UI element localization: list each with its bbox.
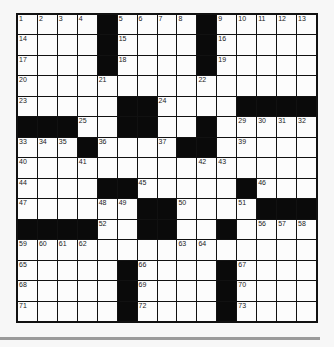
answer-cell[interactable]: [177, 302, 196, 321]
answer-cell[interactable]: [297, 179, 316, 198]
answer-cell[interactable]: [138, 138, 157, 157]
answer-cell[interactable]: 29: [237, 117, 256, 136]
answer-cell[interactable]: [158, 261, 177, 280]
answer-cell[interactable]: 9: [217, 15, 236, 34]
answer-cell[interactable]: [217, 138, 236, 157]
answer-cell[interactable]: [277, 56, 296, 75]
answer-cell[interactable]: [237, 35, 256, 54]
answer-cell[interactable]: [257, 281, 276, 300]
answer-cell[interactable]: 39: [237, 138, 256, 157]
answer-cell[interactable]: [58, 302, 77, 321]
answer-cell[interactable]: [158, 281, 177, 300]
answer-cell[interactable]: [58, 179, 77, 198]
answer-cell[interactable]: [297, 56, 316, 75]
answer-cell[interactable]: 62: [78, 240, 97, 259]
answer-cell[interactable]: [177, 158, 196, 177]
answer-cell[interactable]: [277, 35, 296, 54]
answer-cell[interactable]: [177, 220, 196, 239]
answer-cell[interactable]: [277, 261, 296, 280]
answer-cell[interactable]: [177, 179, 196, 198]
answer-cell[interactable]: 1: [18, 15, 37, 34]
answer-cell[interactable]: [38, 56, 57, 75]
answer-cell[interactable]: [237, 56, 256, 75]
answer-cell[interactable]: 67: [237, 261, 256, 280]
answer-cell[interactable]: [78, 261, 97, 280]
answer-cell[interactable]: 68: [18, 281, 37, 300]
answer-cell[interactable]: [177, 261, 196, 280]
answer-cell[interactable]: [78, 199, 97, 218]
answer-cell[interactable]: [118, 220, 137, 239]
answer-cell[interactable]: [38, 158, 57, 177]
answer-cell[interactable]: 12: [277, 15, 296, 34]
answer-cell[interactable]: [297, 240, 316, 259]
answer-cell[interactable]: [138, 35, 157, 54]
answer-cell[interactable]: [58, 261, 77, 280]
answer-cell[interactable]: 22: [197, 76, 216, 95]
answer-cell[interactable]: 37: [158, 138, 177, 157]
answer-cell[interactable]: [98, 281, 117, 300]
answer-cell[interactable]: [78, 281, 97, 300]
answer-cell[interactable]: 34: [38, 138, 57, 157]
answer-cell[interactable]: [78, 35, 97, 54]
answer-cell[interactable]: 5: [118, 15, 137, 34]
answer-cell[interactable]: [118, 158, 137, 177]
answer-cell[interactable]: [297, 76, 316, 95]
answer-cell[interactable]: 48: [98, 199, 117, 218]
answer-cell[interactable]: [78, 179, 97, 198]
answer-cell[interactable]: 36: [98, 138, 117, 157]
answer-cell[interactable]: 10: [237, 15, 256, 34]
answer-cell[interactable]: [58, 35, 77, 54]
answer-cell[interactable]: [177, 281, 196, 300]
answer-cell[interactable]: 57: [277, 220, 296, 239]
answer-cell[interactable]: [58, 158, 77, 177]
answer-cell[interactable]: 43: [217, 158, 236, 177]
answer-cell[interactable]: [197, 302, 216, 321]
answer-cell[interactable]: 70: [237, 281, 256, 300]
answer-cell[interactable]: 13: [297, 15, 316, 34]
answer-cell[interactable]: [297, 302, 316, 321]
answer-cell[interactable]: [38, 97, 57, 116]
answer-cell[interactable]: 24: [158, 97, 177, 116]
answer-cell[interactable]: 58: [297, 220, 316, 239]
answer-cell[interactable]: 20: [18, 76, 37, 95]
answer-cell[interactable]: [158, 35, 177, 54]
answer-cell[interactable]: [58, 97, 77, 116]
answer-cell[interactable]: [78, 97, 97, 116]
answer-cell[interactable]: 3: [58, 15, 77, 34]
answer-cell[interactable]: [98, 117, 117, 136]
answer-cell[interactable]: [197, 220, 216, 239]
answer-cell[interactable]: [158, 158, 177, 177]
answer-cell[interactable]: 49: [118, 199, 137, 218]
answer-cell[interactable]: [217, 117, 236, 136]
answer-cell[interactable]: [177, 35, 196, 54]
answer-cell[interactable]: [98, 261, 117, 280]
answer-cell[interactable]: [177, 97, 196, 116]
answer-cell[interactable]: 46: [257, 179, 276, 198]
answer-cell[interactable]: [197, 97, 216, 116]
answer-cell[interactable]: [58, 199, 77, 218]
answer-cell[interactable]: [98, 240, 117, 259]
answer-cell[interactable]: [257, 138, 276, 157]
answer-cell[interactable]: [257, 76, 276, 95]
answer-cell[interactable]: [197, 261, 216, 280]
answer-cell[interactable]: 33: [18, 138, 37, 157]
answer-cell[interactable]: [257, 56, 276, 75]
answer-cell[interactable]: [257, 302, 276, 321]
answer-cell[interactable]: [277, 179, 296, 198]
answer-cell[interactable]: [257, 35, 276, 54]
answer-cell[interactable]: 17: [18, 56, 37, 75]
answer-cell[interactable]: [138, 76, 157, 95]
answer-cell[interactable]: [158, 56, 177, 75]
answer-cell[interactable]: 72: [138, 302, 157, 321]
answer-cell[interactable]: [197, 179, 216, 198]
answer-cell[interactable]: [38, 76, 57, 95]
answer-cell[interactable]: [38, 35, 57, 54]
answer-cell[interactable]: [217, 97, 236, 116]
answer-cell[interactable]: [158, 76, 177, 95]
answer-cell[interactable]: 19: [217, 56, 236, 75]
answer-cell[interactable]: [297, 35, 316, 54]
answer-cell[interactable]: [78, 302, 97, 321]
answer-cell[interactable]: 51: [237, 199, 256, 218]
answer-cell[interactable]: [78, 76, 97, 95]
answer-cell[interactable]: 40: [18, 158, 37, 177]
